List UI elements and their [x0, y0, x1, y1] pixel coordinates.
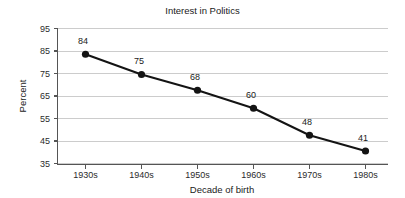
data-label-1970s: 48 [302, 117, 312, 127]
y-axis-title: Percent [17, 79, 28, 112]
data-point-1950s[interactable] [194, 87, 201, 94]
y-tick-label-35: 35 [40, 159, 50, 169]
data-point-1960s[interactable] [250, 105, 257, 112]
y-tick-label-65: 65 [40, 91, 50, 101]
chart-background [0, 0, 405, 198]
data-label-1980s: 41 [358, 133, 368, 143]
data-point-1930s[interactable] [82, 51, 89, 58]
data-label-1950s: 68 [190, 72, 200, 82]
data-point-1940s[interactable] [138, 71, 145, 78]
x-tick-label-1940s: 1940s [129, 170, 154, 180]
x-tick-label-1980s: 1980s [353, 170, 378, 180]
y-tick-label-45: 45 [40, 136, 50, 146]
chart-figure: Interest in Politics 95 85 75 [0, 0, 405, 198]
chart-title: Interest in Politics [165, 5, 240, 16]
x-tick-label-1930s: 1930s [73, 170, 98, 180]
x-tick-label-1970s: 1970s [297, 170, 322, 180]
y-tick-label-55: 55 [40, 114, 50, 124]
data-label-1940s: 75 [134, 56, 144, 66]
data-point-1980s[interactable] [362, 147, 369, 154]
data-label-1930s: 84 [78, 36, 88, 46]
y-tick-label-95: 95 [40, 24, 50, 34]
x-axis-title: Decade of birth [190, 184, 254, 195]
data-point-1970s[interactable] [306, 132, 313, 139]
y-tick-label-85: 85 [40, 46, 50, 56]
data-label-1960s: 60 [246, 90, 256, 100]
x-tick-label-1960s: 1960s [241, 170, 266, 180]
chart-canvas: Interest in Politics 95 85 75 [0, 0, 405, 198]
y-tick-label-75: 75 [40, 69, 50, 79]
x-tick-label-1950s: 1950s [185, 170, 210, 180]
